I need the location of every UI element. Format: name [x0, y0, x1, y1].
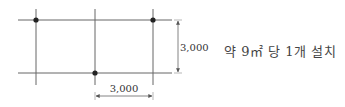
point-bottom-middle — [92, 70, 97, 75]
point-top-left — [33, 17, 38, 22]
point-top-right — [150, 17, 155, 22]
vertical-dimension-value: 3,000 — [180, 42, 209, 53]
horizontal-dimension-value: 3,000 — [110, 83, 139, 94]
installation-note: 약 9㎡ 당 1개 설치 — [224, 41, 336, 60]
